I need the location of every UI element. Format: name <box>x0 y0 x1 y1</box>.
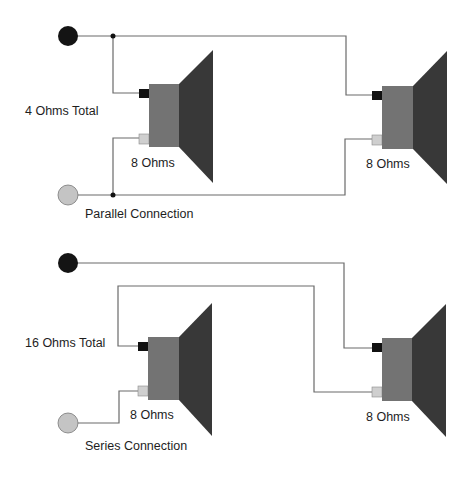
positive-jack-icon <box>58 253 78 273</box>
speaker-magnet <box>382 86 413 149</box>
parallel-connection-diagram: 4 Ohms Total 8 Ohms 8 Ohms Parallel Conn… <box>25 26 447 221</box>
positive-terminal <box>138 342 148 351</box>
negative-terminal <box>138 386 148 396</box>
negative-terminal <box>372 135 382 145</box>
speaker-cone <box>179 50 213 183</box>
positive-terminal <box>372 343 382 352</box>
speaker-magnet <box>148 337 179 400</box>
series-total-label: 16 Ohms Total <box>25 336 105 350</box>
parallel-caption: Parallel Connection <box>85 207 193 221</box>
negative-terminal <box>139 134 149 144</box>
speaker-impedance-label: 8 Ohms <box>131 156 175 170</box>
speaker-cone <box>413 51 447 184</box>
positive-jack-icon <box>58 26 78 46</box>
series-connection-diagram: 16 Ohms Total 8 Ohms 8 Ohms Series Conne… <box>25 253 446 453</box>
positive-terminal <box>372 91 382 100</box>
negative-jack-icon <box>58 413 78 433</box>
parallel-total-label: 4 Ohms Total <box>25 104 98 118</box>
series-positive-wire <box>68 263 372 348</box>
speaker-magnet <box>382 338 412 401</box>
junction-dot <box>111 34 116 39</box>
speaker-cone <box>412 304 446 437</box>
parallel-positive-wire-branch <box>113 36 139 93</box>
negative-jack-icon <box>58 185 78 205</box>
speaker-impedance-label: 8 Ohms <box>366 157 410 171</box>
positive-terminal <box>139 89 149 98</box>
speaker-cone <box>179 303 212 436</box>
junction-dot <box>111 193 116 198</box>
speaker-magnet <box>149 84 179 147</box>
series-negative-wire <box>68 391 138 423</box>
speaker-impedance-label: 8 Ohms <box>130 408 174 422</box>
speaker-impedance-label: 8 Ohms <box>366 410 410 424</box>
series-caption: Series Connection <box>85 439 187 453</box>
speaker-wiring-diagram: 4 Ohms Total 8 Ohms 8 Ohms Parallel Conn… <box>0 0 474 478</box>
negative-terminal <box>372 387 382 397</box>
